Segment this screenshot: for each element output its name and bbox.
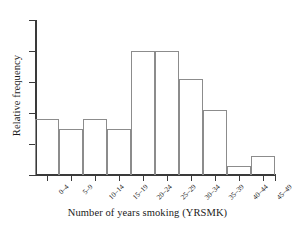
x-axis-tick [215,176,216,181]
x-axis-title: Number of years smoking (YRSMK) [0,207,295,218]
histogram-bar [227,166,251,175]
histogram-bar [83,119,107,175]
x-axis-tick [191,176,192,181]
y-axis-title: Relative frequency [11,31,22,161]
x-axis-tick-label: 25–29 [179,183,197,201]
x-axis-tick-label: 35–39 [227,183,245,201]
x-axis-tick-label: 45–49 [275,183,293,201]
histogram-bar [35,119,59,175]
x-axis-tick [47,176,48,181]
plot-area [35,20,275,175]
x-axis-tick-label: 10–14 [107,183,125,201]
histogram-bar [251,156,275,175]
x-axis-tick-label: 40–44 [251,183,269,201]
x-axis-tick [95,176,96,181]
x-axis-tick [263,176,264,181]
x-axis-tick-label: 20–24 [155,183,173,201]
x-axis-tick [119,176,120,181]
histogram-bar [107,129,131,176]
x-axis-tick-label: 15–19 [131,183,149,201]
x-axis-tick [143,176,144,181]
x-axis-tick [71,176,72,181]
histogram-figure: Relative frequency 0–45–910–1415–1920–24… [0,0,295,229]
histogram-bar [131,51,155,175]
histogram-bar [179,79,203,175]
histogram-bar [155,51,179,175]
histogram-bar [203,110,227,175]
x-axis-tick-label: 30–34 [203,183,221,201]
x-axis-tick [167,176,168,181]
x-axis-tick-label: 0–4 [57,183,70,196]
x-axis-tick [275,176,276,181]
x-axis-tick [239,176,240,181]
histogram-bar [59,129,83,176]
x-axis-tick-label: 5–9 [81,183,94,196]
y-axis-tick [29,175,35,176]
